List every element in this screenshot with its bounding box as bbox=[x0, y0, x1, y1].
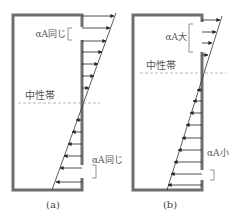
lower-opening-label-b: αA小 bbox=[207, 148, 229, 158]
upper-opening-bracket-a bbox=[68, 28, 72, 40]
pressure-line-b bbox=[167, 16, 222, 190]
lower-opening-bracket-b bbox=[210, 170, 214, 180]
neutral-zone-label-b: 中性帯 bbox=[146, 59, 176, 71]
lower-opening-bracket-a bbox=[92, 165, 96, 178]
outflow-arrows-a bbox=[82, 16, 114, 88]
lower-opening-label-a: αA同じ bbox=[92, 155, 123, 165]
panel-a: αA同じ 中性帯 αA同じ (a) bbox=[13, 13, 123, 210]
building-outline-a bbox=[13, 15, 82, 190]
caption-a: (a) bbox=[46, 199, 60, 210]
neutral-zone-label-a: 中性帯 bbox=[25, 89, 55, 101]
panel-b: αA大 中性帯 αA小 (b) bbox=[133, 15, 229, 210]
upper-opening-bracket-b bbox=[189, 24, 193, 52]
upper-opening-label-a: αA同じ bbox=[35, 29, 66, 39]
neutral-zone-diagram: αA同じ 中性帯 αA同じ (a) bbox=[0, 0, 236, 216]
upper-opening-label-b: αA大 bbox=[165, 31, 187, 42]
caption-b: (b) bbox=[163, 199, 177, 210]
inflow-arrows-a bbox=[56, 120, 82, 182]
